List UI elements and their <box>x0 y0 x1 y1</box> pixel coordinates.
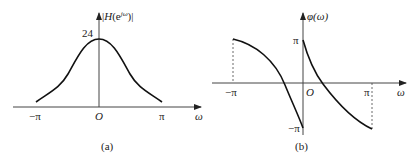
ytick-neg-pi-b: −π <box>288 122 300 134</box>
caption-b: (b) <box>295 140 308 153</box>
y-label-b: φ(ω) <box>307 10 329 23</box>
tick-neg-pi-b: −π <box>225 86 237 98</box>
tick-pi-b: π <box>364 86 370 98</box>
x-label-b: ω <box>397 86 405 98</box>
ytick-pi-b: π <box>293 34 299 46</box>
peak-label: 24 <box>82 27 94 39</box>
panel-b: φ(ω) π −π −π O π ω (b) <box>212 10 406 153</box>
origin-a: O <box>95 110 103 122</box>
tick-pi-a: π <box>159 110 165 122</box>
x-label-a: ω <box>195 110 203 122</box>
tick-neg-pi-a: −π <box>29 110 41 122</box>
phase-curve-right <box>303 40 372 129</box>
panel-a: 24 |H(ejω)| −π O π ω (a) <box>13 10 203 153</box>
y-label-a: |H(ejω)| <box>102 10 133 23</box>
figure: 24 |H(ejω)| −π O π ω (a) φ(ω) π −π −π O … <box>0 0 414 163</box>
caption-a: (a) <box>101 140 114 153</box>
origin-b: O <box>306 86 314 98</box>
